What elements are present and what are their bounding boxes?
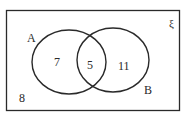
venn-diagram: ξ A B 7 5 11 8 — [0, 0, 184, 117]
a-only-count: 7 — [54, 55, 60, 69]
universal-set-symbol: ξ — [169, 17, 174, 30]
set-a-circle — [32, 30, 106, 94]
outside-count: 8 — [19, 91, 25, 105]
intersection-count: 5 — [87, 58, 93, 72]
set-a-label: A — [27, 31, 36, 45]
set-b-label: B — [144, 83, 152, 97]
b-only-count: 11 — [118, 59, 130, 73]
